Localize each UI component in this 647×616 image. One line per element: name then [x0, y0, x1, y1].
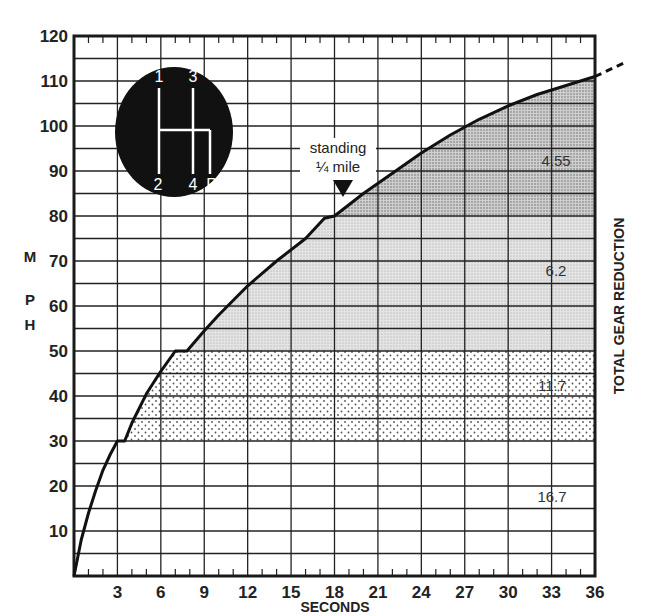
y-tick-label: 70 [49, 252, 68, 271]
quarter-mile-annotation: standing ¼ mile [300, 138, 376, 197]
y-tick-label: 50 [49, 342, 68, 361]
svg-text:4: 4 [189, 176, 198, 193]
svg-text:1: 1 [155, 68, 164, 85]
svg-text:standing: standing [310, 139, 367, 156]
x-tick-label: 27 [455, 583, 474, 602]
x-axis-title: SECONDS [300, 599, 369, 615]
x-tick-label: 24 [412, 583, 431, 602]
y-tick-label: 10 [49, 522, 68, 541]
svg-text:3: 3 [189, 68, 198, 85]
y-tick-label: 100 [40, 117, 68, 136]
y-axis-title: M P H [24, 248, 37, 333]
extrapolation-dashed-line [595, 63, 624, 77]
shift-pattern-inset: 1 3 2 4 R [115, 67, 233, 197]
svg-text:P: P [25, 291, 35, 308]
x-tick-label: 3 [113, 583, 122, 602]
gear-label-4-55: 4.55 [541, 152, 570, 169]
svg-text:¼ mile: ¼ mile [316, 158, 360, 175]
x-tick-label: 33 [542, 583, 561, 602]
svg-text:M: M [24, 248, 37, 265]
y-tick-label: 80 [49, 207, 68, 226]
acceleration-chart: 102030405060708090100110120 369121518212… [0, 0, 647, 616]
svg-text:H: H [25, 316, 36, 333]
y-tick-label: 120 [40, 27, 68, 46]
x-tick-label: 12 [238, 583, 257, 602]
x-tick-label: 9 [200, 583, 209, 602]
x-tick-label: 36 [586, 583, 605, 602]
y-tick-label: 60 [49, 297, 68, 316]
gear-label-6-2: 6.2 [546, 262, 567, 279]
y-tick-label: 40 [49, 387, 68, 406]
x-tick-label: 21 [368, 583, 387, 602]
gear-label-16-7: 16.7 [537, 488, 566, 505]
y-tick-label: 20 [49, 477, 68, 496]
y-tick-label: 30 [49, 432, 68, 451]
x-tick-label: 30 [499, 583, 518, 602]
svg-text:R: R [206, 176, 218, 193]
x-tick-label: 6 [156, 583, 165, 602]
gear-label-11-7: 11.7 [538, 377, 566, 394]
y-axis-ticks: 102030405060708090100110120 [40, 27, 68, 541]
right-axis-title: TOTAL GEAR REDUCTION [611, 218, 627, 395]
down-triangle-marker [333, 180, 353, 197]
x-tick-label: 15 [282, 583, 301, 602]
y-tick-label: 110 [41, 72, 68, 91]
y-tick-label: 90 [49, 162, 68, 181]
svg-text:2: 2 [154, 176, 163, 193]
